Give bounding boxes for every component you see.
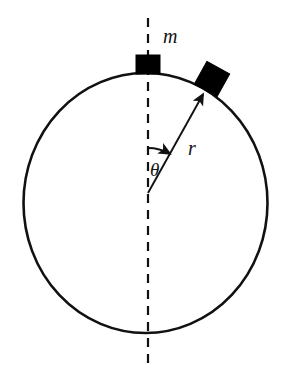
top-mass-block [136,55,160,74]
angle-label: θ [150,160,159,179]
circle-hoop [24,73,268,333]
physics-diagram-figure: m r θ [0,0,283,382]
angled-mass-block [194,61,229,96]
radius-label: r [188,138,196,158]
diagram-canvas [0,0,283,382]
mass-label: m [163,26,177,46]
angle-arc-arrow [148,148,170,154]
